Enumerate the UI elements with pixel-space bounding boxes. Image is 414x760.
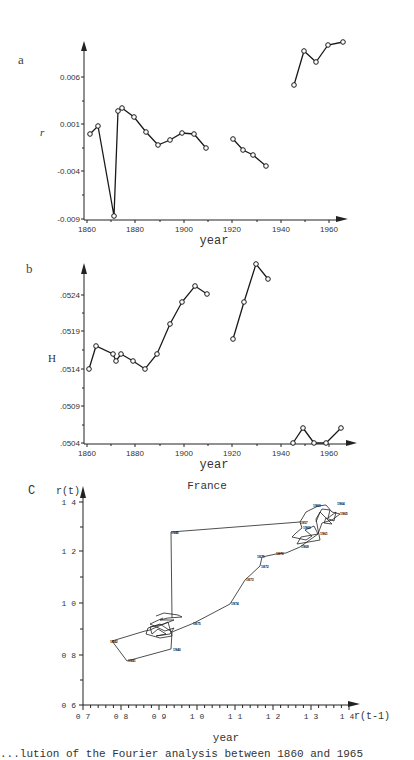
panel-a-xtick: 1860	[78, 225, 96, 234]
year-label: 1946	[171, 531, 179, 535]
panel-b-ytick: .0514	[60, 365, 81, 374]
panel-b-xtick: 1860	[78, 449, 96, 458]
year-label: 1940	[173, 648, 181, 652]
year-label: 1964	[337, 502, 345, 506]
panel-a-series-1	[90, 108, 206, 216]
year-label: 1873	[246, 578, 254, 582]
panel-b-ytick: .0509	[60, 402, 81, 411]
panel-c-y-arrow-icon	[80, 486, 86, 498]
panel-c-cluster-upper	[292, 509, 336, 544]
panel-c-ytick: 0 6	[62, 701, 77, 710]
year-label: 1974	[231, 602, 239, 606]
year-label: 1957	[300, 521, 308, 525]
panel-a-xtick: 1960	[320, 225, 338, 234]
panel-c-x-arrow-icon	[348, 701, 360, 707]
panel-b-xtick: 1940	[272, 449, 290, 458]
panel-c-trajectory: 1946 1957 1960 1963 1964 1965 1961 1969 …	[110, 502, 348, 663]
panel-c-xtick: 1 0	[190, 712, 205, 721]
figure-caption: ...lution of the Fourier analysis betwee…	[0, 748, 414, 760]
panel-b-xtick: 1880	[126, 449, 144, 458]
panel-a: a 0.006 0.001 -0.004 -0.009 r	[18, 40, 348, 248]
panel-a-x-label: year	[200, 234, 229, 248]
panel-c-xtick: 1 4	[340, 712, 355, 721]
year-label: 1961	[320, 532, 328, 536]
panel-c-xtick: 1 3	[304, 712, 319, 721]
year-label: 1875	[193, 622, 201, 626]
panel-b-ytick: .0519	[60, 327, 81, 336]
panel-c-xtick: 1 2	[266, 712, 281, 721]
panel-a-y-arrow-icon	[81, 41, 87, 51]
panel-a-ytick: -0.004	[57, 167, 80, 176]
panel-b-ytick: .0504	[60, 439, 81, 448]
panel-b: b .0524 .0519 .0514 .0509 .0504 H 1860 1…	[26, 261, 357, 472]
panel-c-ytick: 1 0	[62, 599, 77, 608]
panel-b-series-2	[233, 264, 268, 339]
year-label: 1870	[276, 552, 284, 556]
panel-c-y-ticks: 1 4 1 2 1 0 0 8 0 6	[62, 498, 83, 710]
panel-a-x-arrow-icon	[336, 216, 348, 222]
panel-c-xtick: 1 1	[228, 712, 243, 721]
panel-b-x-arrow-icon	[346, 440, 357, 446]
panel-a-markers	[88, 40, 346, 219]
panel-b-xtick: 1920	[223, 449, 241, 458]
year-label: 1872	[261, 565, 269, 569]
panel-c-cluster-lower	[150, 613, 182, 636]
panel-b-x-label: year	[200, 458, 229, 472]
panel-a-xtick: 1900	[175, 225, 193, 234]
panel-c-xtick: 0 7	[76, 712, 91, 721]
panel-b-x-ticks: 1860 1880 1900 1920 1940 1960	[78, 444, 338, 458]
year-label: 1941	[128, 659, 136, 663]
panel-c: c France r(t) 1 4 1 2 1 0 0 8 0 6 0 7 0 …	[28, 480, 390, 744]
panel-b-series-3	[293, 428, 341, 443]
panel-b-xtick: 1900	[175, 449, 193, 458]
panel-c-xtick: 0 9	[152, 712, 167, 721]
panel-c-title: France	[187, 480, 227, 492]
panel-c-x-ticks	[83, 705, 349, 710]
panel-c-x-label: r(t-1)	[354, 711, 390, 722]
panel-b-series-1	[89, 286, 207, 369]
panel-a-series-2	[233, 139, 266, 166]
panel-b-xtick: 1960	[320, 449, 338, 458]
panel-c-bottom-label: year	[213, 732, 239, 744]
panel-b-letter: b	[26, 261, 33, 276]
panel-a-ytick: -0.009	[57, 215, 80, 224]
panel-a-ytick: 0.001	[60, 120, 81, 129]
panel-a-xtick: 1920	[223, 225, 241, 234]
panel-a-x-ticks: 1860 1880 1900 1920 1940 1960	[78, 220, 338, 234]
panel-c-y-label: r(t)	[56, 486, 80, 497]
panel-b-y-label: H	[48, 352, 56, 364]
year-label: 1963	[313, 504, 321, 508]
panel-a-xtick: 1880	[126, 225, 144, 234]
panel-a-letter: a	[18, 52, 24, 67]
panel-b-y-ticks: .0524 .0519 .0514 .0509 .0504	[60, 291, 84, 448]
year-label: 1942	[110, 640, 118, 644]
panel-c-x-tick-labels: 0 7 0 8 0 9 1 0 1 1 1 2 1 3 1 4	[76, 712, 355, 721]
year-label: 1965	[340, 512, 348, 516]
year-label: 1969	[301, 545, 309, 549]
panel-a-ytick: 0.006	[60, 73, 81, 82]
year-label: 1960	[303, 526, 311, 530]
panel-c-letter: c	[28, 484, 35, 498]
panel-c-ytick: 1 4	[62, 498, 77, 507]
year-label: 1871	[257, 555, 265, 559]
panel-a-y-ticks: 0.006 0.001 -0.004 -0.009	[57, 73, 84, 224]
panel-b-ytick: .0524	[60, 291, 81, 300]
panel-b-markers	[87, 262, 344, 446]
panel-c-ytick: 1 2	[62, 547, 77, 556]
panel-a-y-label: r	[40, 126, 45, 138]
panel-b-y-arrow-icon	[81, 263, 87, 274]
panel-c-ytick: 0 8	[62, 651, 77, 660]
panel-a-xtick: 1940	[272, 225, 290, 234]
panel-a-series-3	[294, 42, 343, 85]
panel-c-xtick: 0 8	[114, 712, 129, 721]
